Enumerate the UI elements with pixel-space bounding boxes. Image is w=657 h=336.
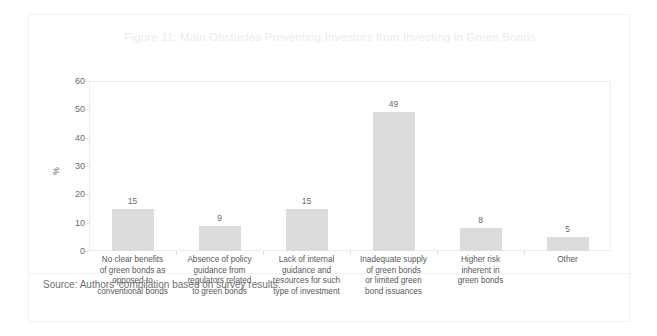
y-tick-label: 0 [59,246,85,256]
x-category-line: or limited green [350,276,437,287]
y-tick-mark [85,109,89,110]
x-tick-mark [176,251,177,255]
x-category-label: Inadequate supplyof green bondsor limite… [350,255,437,297]
y-tick-mark [85,81,89,82]
x-category-line: inherent in [437,266,524,277]
x-category-label: Higher riskinherent ingreen bonds [437,255,524,287]
x-category-label: Absence of policyguidance fromregulators… [176,255,263,297]
x-category-line: Higher risk [437,255,524,266]
x-category-label: No clear benefitsof green bonds asoppose… [89,255,176,297]
y-tick-mark [85,223,89,224]
x-category-line: Lack of internal [263,255,350,266]
x-tick-mark [524,251,525,255]
x-category-line: green bonds [437,276,524,287]
x-category-line: Inadequate supply [350,255,437,266]
plot-area [89,81,611,251]
x-tick-mark [350,251,351,255]
y-tick-label: 10 [59,218,85,228]
y-axis: 0102030405060 [53,81,85,251]
y-tick-label: 40 [59,133,85,143]
y-tick-mark [85,251,89,252]
x-category-line: Other [524,255,611,266]
x-category-label: Lack of internalguidance andresources fo… [263,255,350,297]
x-category-line: Absence of policy [176,255,263,266]
source-divider [29,273,631,274]
figure-card: Figure 11: Main Obstacles Preventing Inv… [28,14,630,322]
x-category-line: of green bonds as [89,266,176,277]
y-tick-label: 30 [59,161,85,171]
source-note: Source: Authors' compilation based on su… [43,279,281,290]
x-category-line: No clear benefits [89,255,176,266]
y-tick-mark [85,194,89,195]
y-tick-label: 60 [59,76,85,86]
x-category-line: guidance and [263,266,350,277]
x-tick-mark [263,251,264,255]
figure-title: Figure 11: Main Obstacles Preventing Inv… [29,31,631,43]
x-category-line: bond issuances [350,287,437,298]
y-tick-mark [85,138,89,139]
y-tick-label: 20 [59,189,85,199]
y-tick-label: 50 [59,104,85,114]
x-category-label: Other [524,255,611,266]
x-tick-mark [437,251,438,255]
x-category-line: of green bonds [350,266,437,277]
x-category-line: guidance from [176,266,263,277]
y-tick-mark [85,166,89,167]
